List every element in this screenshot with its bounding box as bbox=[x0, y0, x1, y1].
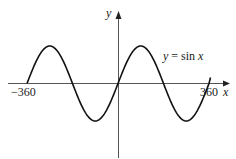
curve-equation-label: y = sin x bbox=[163, 50, 203, 62]
x-max-tick-label: 360 bbox=[200, 86, 218, 98]
x-min-tick-label: −360 bbox=[11, 86, 36, 98]
y-axis-arrow-icon bbox=[116, 11, 122, 19]
x-axis-label: x bbox=[223, 86, 228, 98]
y-axis-label: y bbox=[106, 7, 111, 19]
sine-chart bbox=[0, 0, 236, 159]
